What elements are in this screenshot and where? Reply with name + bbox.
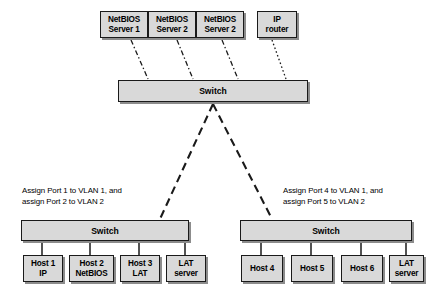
switch-label: Switch (91, 226, 119, 236)
top-node-ip-router[interactable]: IP router (257, 11, 297, 38)
right-host-host-6[interactable]: Host 6 (341, 255, 383, 282)
switch-label: Switch (199, 86, 227, 96)
access-link-3 (222, 40, 238, 79)
left-host-label: LAT server (174, 259, 198, 279)
left-host-host-2-netbios[interactable]: Host 2 NetBIOS (69, 255, 114, 282)
trunk-link-1 (160, 104, 213, 219)
right-host-host-4[interactable]: Host 4 (241, 255, 283, 282)
access-link-2 (177, 40, 193, 79)
right-host-label: Host 6 (350, 264, 374, 274)
right-host-lat-server[interactable]: LAT server (389, 255, 424, 282)
left-host-label: Host 2 NetBIOS (75, 259, 107, 279)
right-host-label: Host 4 (250, 264, 274, 274)
left-host-host-1-ip[interactable]: Host 1 IP (23, 255, 63, 282)
top-node-label: NetBIOS Server 1 (108, 15, 140, 35)
network-diagram: NetBIOS Server 1NetBIOS Server 2NetBIOS … (0, 0, 426, 295)
left-host-host-3-lat[interactable]: Host 3 LAT (120, 255, 160, 282)
right-switch[interactable]: Switch (240, 220, 412, 241)
left-host-label: Host 1 IP (31, 259, 55, 279)
switch-label: Switch (312, 226, 340, 236)
top-node-label: IP router (266, 15, 289, 35)
top-node-netbios-server-2[interactable]: NetBIOS Server 2 (196, 11, 244, 38)
right-host-host-5[interactable]: Host 5 (291, 255, 333, 282)
right-host-label: Host 5 (300, 264, 324, 274)
top-node-netbios-server-2[interactable]: NetBIOS Server 2 (148, 11, 196, 38)
left-host-label: Host 3 LAT (128, 259, 152, 279)
left-switch[interactable]: Switch (21, 220, 189, 241)
access-link-4 (272, 40, 286, 79)
top-node-netbios-server-1[interactable]: NetBIOS Server 1 (100, 11, 148, 38)
left-host-lat-server[interactable]: LAT server (166, 255, 206, 282)
trunk-link-2 (213, 104, 272, 219)
core-switch[interactable]: Switch (118, 80, 308, 102)
vlan-annotation-1: Assign Port 1 to VLAN 1, and assign Port… (22, 186, 122, 208)
top-node-label: NetBIOS Server 2 (156, 15, 188, 35)
connector-layer (0, 0, 426, 295)
vlan-annotation-2: Assign Port 4 to VLAN 1, and assign Port… (283, 186, 383, 208)
access-link-1 (131, 40, 148, 79)
right-host-label: LAT server (395, 259, 419, 279)
top-node-label: NetBIOS Server 2 (204, 15, 236, 35)
